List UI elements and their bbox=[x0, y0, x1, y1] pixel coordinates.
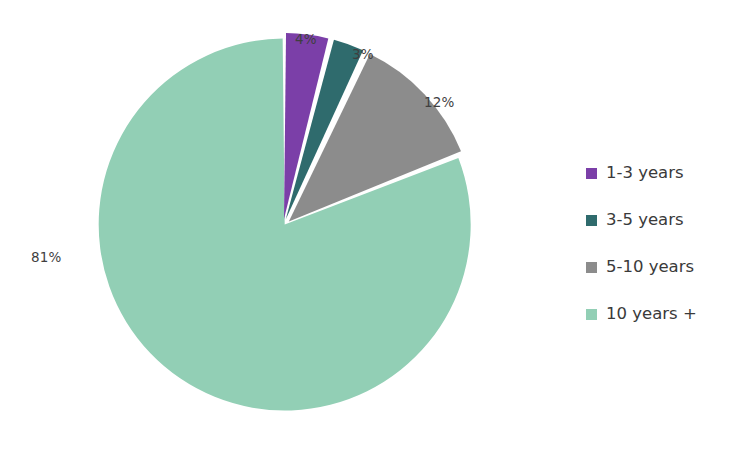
slice-value-label-5-10-years: 12% bbox=[424, 96, 454, 110]
legend-swatch-icon-3-5-years bbox=[586, 215, 597, 226]
legend-label-3-5-years: 3-5 years bbox=[606, 212, 684, 229]
legend-item-3-5-years[interactable]: 3-5 years bbox=[586, 197, 746, 244]
legend-swatch-icon-1-3-years bbox=[586, 168, 597, 179]
legend-swatch-icon-5-10-years bbox=[586, 262, 597, 273]
legend-swatch-icon-10-years-plus bbox=[586, 309, 597, 320]
legend-item-1-3-years[interactable]: 1-3 years bbox=[586, 150, 746, 197]
legend-label-1-3-years: 1-3 years bbox=[606, 165, 684, 182]
chart-legend: 1-3 years 3-5 years 5-10 years 10 years … bbox=[586, 150, 746, 338]
legend-item-10-years-plus[interactable]: 10 years + bbox=[586, 291, 746, 338]
slice-value-label-1-3-years: 4% bbox=[295, 33, 317, 47]
slice-value-label-3-5-years: 3% bbox=[352, 48, 374, 62]
pie-chart-figure: 4% 3% 12% 81% 1-3 years 3-5 years 5-10 y… bbox=[0, 0, 747, 450]
legend-label-5-10-years: 5-10 years bbox=[606, 259, 694, 276]
slice-value-label-10-years-plus: 81% bbox=[31, 251, 61, 265]
legend-item-5-10-years[interactable]: 5-10 years bbox=[586, 244, 746, 291]
legend-label-10-years-plus: 10 years + bbox=[606, 306, 697, 323]
